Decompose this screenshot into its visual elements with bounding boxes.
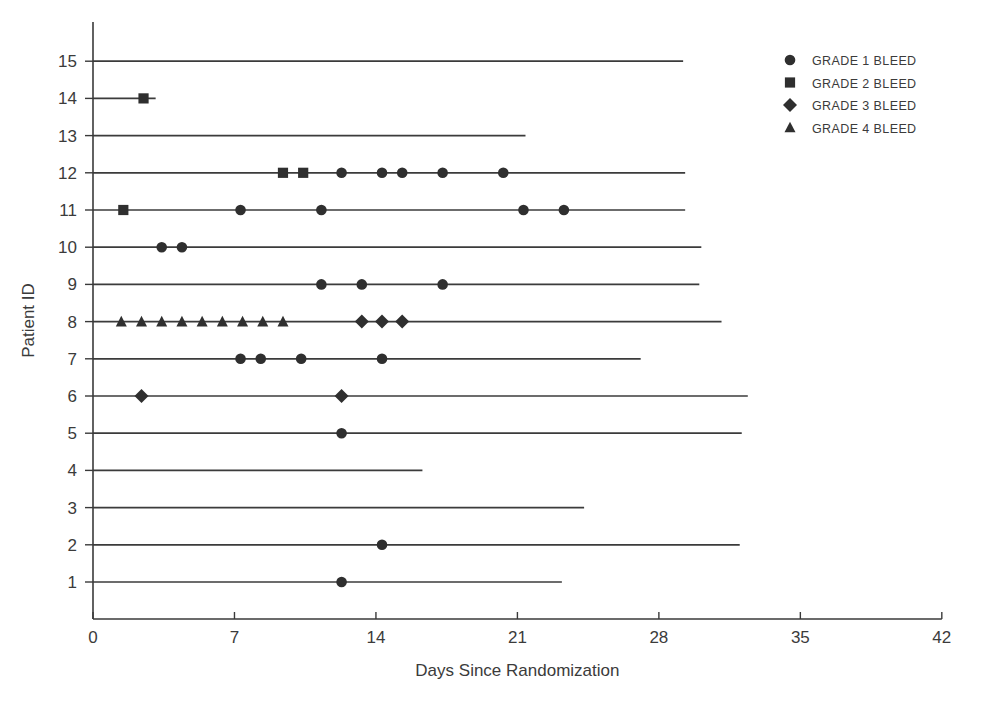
x-axis-title: Days Since Randomization <box>415 661 619 680</box>
axis-labels-layer: 071421283542123456789101112131415Days Si… <box>19 52 951 680</box>
legend-item-grade-1: GRADE 1 BLEED <box>785 54 917 68</box>
y-tick-label: 9 <box>68 275 77 294</box>
event-marker-grade-1 <box>296 354 307 365</box>
event-marker-grade-3 <box>355 315 369 329</box>
patient-row-8 <box>93 315 722 329</box>
event-marker-grade-1 <box>377 168 388 179</box>
event-marker-grade-1 <box>316 279 327 290</box>
bleeding-events-chart: 071421283542123456789101112131415Days Si… <box>0 0 989 719</box>
y-tick-label: 15 <box>58 52 77 71</box>
event-marker-grade-1 <box>156 242 167 253</box>
patient-row-1 <box>93 577 562 588</box>
legend-circle-icon <box>785 55 796 66</box>
y-tick-label: 6 <box>68 387 77 406</box>
legend-label: GRADE 1 BLEED <box>812 54 917 68</box>
event-marker-grade-1 <box>437 279 448 290</box>
event-marker-grade-1 <box>235 205 246 216</box>
event-marker-grade-1 <box>377 540 388 551</box>
y-tick-label: 1 <box>68 573 77 592</box>
legend-square-icon <box>785 77 795 87</box>
patient-row-2 <box>93 540 740 551</box>
patient-row-11 <box>93 205 685 216</box>
legend-label: GRADE 2 BLEED <box>812 77 917 91</box>
event-marker-grade-1 <box>336 428 347 439</box>
event-marker-grade-2 <box>298 168 308 178</box>
event-marker-grade-1 <box>356 279 367 290</box>
event-marker-grade-1 <box>559 205 570 216</box>
x-tick-label: 0 <box>88 628 97 647</box>
y-tick-label: 7 <box>68 350 77 369</box>
event-marker-grade-1 <box>255 354 266 365</box>
x-tick-label: 35 <box>791 628 810 647</box>
y-tick-label: 4 <box>68 461 77 480</box>
x-tick-label: 28 <box>649 628 668 647</box>
x-tick-label: 7 <box>230 628 239 647</box>
event-marker-grade-2 <box>118 205 128 215</box>
event-marker-grade-3 <box>335 389 349 403</box>
legend-label: GRADE 3 BLEED <box>812 99 917 113</box>
event-marker-grade-1 <box>498 168 509 179</box>
y-tick-label: 13 <box>58 127 77 146</box>
y-tick-label: 3 <box>68 499 77 518</box>
legend-item-grade-3: GRADE 3 BLEED <box>783 98 917 113</box>
x-tick-label: 42 <box>932 628 951 647</box>
patient-row-12 <box>93 168 685 179</box>
event-marker-grade-1 <box>316 205 327 216</box>
event-marker-grade-2 <box>278 168 288 178</box>
y-axis-title: Patient ID <box>19 283 38 358</box>
y-tick-label: 14 <box>58 89 77 108</box>
y-tick-label: 12 <box>58 164 77 183</box>
event-marker-grade-3 <box>135 389 149 403</box>
event-marker-grade-2 <box>138 93 148 103</box>
event-marker-grade-1 <box>336 577 347 588</box>
event-marker-grade-1 <box>397 168 408 179</box>
event-marker-grade-3 <box>375 315 389 329</box>
legend-item-grade-2: GRADE 2 BLEED <box>785 77 917 91</box>
patient-row-6 <box>93 389 748 403</box>
patient-row-5 <box>93 428 742 439</box>
event-marker-grade-3 <box>395 315 409 329</box>
x-tick-label: 21 <box>508 628 527 647</box>
event-marker-grade-1 <box>177 242 188 253</box>
patient-row-9 <box>93 279 699 290</box>
y-tick-label: 8 <box>68 313 77 332</box>
event-marker-grade-1 <box>377 354 388 365</box>
legend-triangle-icon <box>785 122 796 133</box>
patient-row-10 <box>93 242 701 253</box>
y-tick-label: 2 <box>68 536 77 555</box>
legend-diamond-icon <box>783 98 797 112</box>
x-tick-label: 14 <box>366 628 385 647</box>
event-marker-grade-1 <box>437 168 448 179</box>
y-tick-label: 11 <box>59 201 77 220</box>
patient-row-7 <box>93 354 641 365</box>
y-tick-label: 5 <box>68 424 77 443</box>
legend-item-grade-4: GRADE 4 BLEED <box>785 122 917 136</box>
event-marker-grade-1 <box>235 354 246 365</box>
y-tick-label: 10 <box>58 238 77 257</box>
chart-canvas: 071421283542123456789101112131415Days Si… <box>0 0 989 719</box>
event-marker-grade-1 <box>336 168 347 179</box>
legend: GRADE 1 BLEEDGRADE 2 BLEEDGRADE 3 BLEEDG… <box>783 54 917 136</box>
series-layer <box>93 61 748 587</box>
event-marker-grade-1 <box>518 205 529 216</box>
patient-row-14 <box>93 93 156 103</box>
legend-label: GRADE 4 BLEED <box>812 122 917 136</box>
